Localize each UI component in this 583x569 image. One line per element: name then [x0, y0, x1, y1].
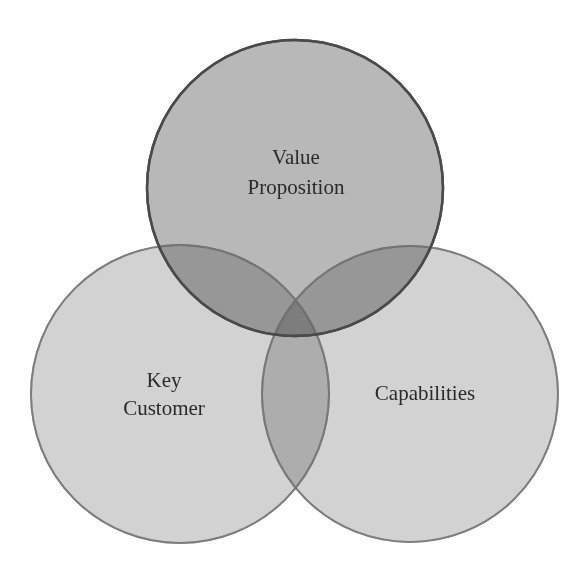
label-value-line2: Proposition — [248, 175, 345, 199]
circles-layer — [31, 40, 558, 543]
label-key-customer-line2: Customer — [123, 396, 205, 420]
venn-diagram: Value Proposition Key Customer Capabilit… — [0, 0, 583, 569]
label-capabilities: Capabilities — [375, 381, 475, 405]
label-value-line1: Value — [272, 145, 320, 169]
label-key-customer-line1: Key — [147, 368, 182, 392]
